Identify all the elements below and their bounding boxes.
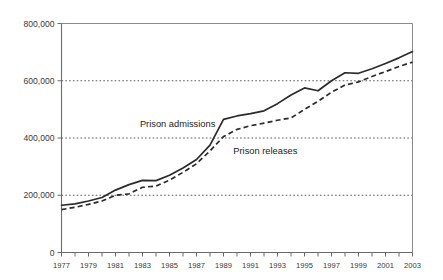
series-annotations: Prison admissionsPrison releases bbox=[140, 119, 298, 156]
x-tick-label-1979: 1979 bbox=[80, 261, 97, 270]
y-axis-tick-labels: 0200,000400,000600,000800,000 bbox=[23, 19, 54, 258]
x-tick-label-1993: 1993 bbox=[269, 261, 286, 270]
y-axis-ticks bbox=[58, 24, 62, 253]
x-tick-label-1983: 1983 bbox=[134, 261, 151, 270]
series-line-prison-admissions bbox=[62, 52, 413, 206]
x-tick-label-1981: 1981 bbox=[107, 261, 124, 270]
annotation-prison-admissions: Prison admissions bbox=[140, 119, 216, 129]
y-tick-label-0: 0 bbox=[50, 248, 55, 258]
x-tick-label-2003: 2003 bbox=[404, 261, 421, 270]
x-tick-label-1991: 1991 bbox=[242, 261, 259, 270]
data-series-group bbox=[62, 52, 413, 210]
x-tick-label-2001: 2001 bbox=[377, 261, 394, 270]
x-axis-ticks bbox=[62, 253, 413, 257]
y-tick-label-800000: 800,000 bbox=[23, 19, 54, 29]
chart-canvas: 0200,000400,000600,000800,000 1977197919… bbox=[0, 0, 443, 280]
x-tick-label-1987: 1987 bbox=[188, 261, 205, 270]
x-tick-label-1985: 1985 bbox=[161, 261, 178, 270]
x-tick-label-1977: 1977 bbox=[53, 261, 70, 270]
y-tick-label-200000: 200,000 bbox=[23, 190, 54, 200]
prison-admissions-releases-chart: 0200,000400,000600,000800,000 1977197919… bbox=[0, 0, 443, 280]
x-tick-label-1999: 1999 bbox=[350, 261, 367, 270]
x-axis-tick-labels: 1977197919811983198519871989199119931995… bbox=[53, 261, 421, 270]
x-tick-label-1997: 1997 bbox=[323, 261, 340, 270]
annotation-prison-releases: Prison releases bbox=[233, 146, 297, 156]
x-tick-label-1995: 1995 bbox=[296, 261, 313, 270]
gridlines-group bbox=[62, 81, 413, 196]
x-tick-label-1989: 1989 bbox=[215, 261, 232, 270]
y-tick-label-600000: 600,000 bbox=[23, 76, 54, 86]
series-line-prison-releases bbox=[62, 62, 413, 209]
y-tick-label-400000: 400,000 bbox=[23, 133, 54, 143]
